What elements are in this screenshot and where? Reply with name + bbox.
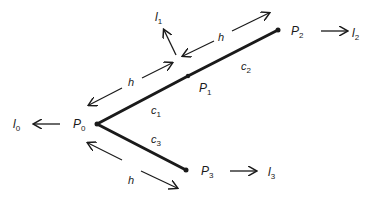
segment-c1 [97,76,188,124]
direction-label-l3-sub: 3 [271,172,275,181]
node-dot-p3 [184,168,189,173]
spacing-label-h-c2: h [218,31,224,43]
segment-label-c3-sub: 3 [157,139,161,148]
node-label-p2: P2 [291,25,303,37]
node-label-p0-sub: 0 [81,124,85,133]
direction-label-l2-sub: 2 [355,33,359,42]
node-label-p2-sub: 2 [299,31,303,40]
node-label-p1: P1 [199,82,211,94]
h-arrow-c1-right-icon [142,63,172,78]
node-label-p0-base: P [73,117,81,131]
direction-label-l0: l0 [13,118,20,130]
spacing-label-h-c1: h [128,76,134,88]
segment-c2 [188,30,278,76]
node-label-p1-sub: 1 [207,88,211,97]
segment-label-c3: c3 [151,133,161,145]
spacing-label-h-c3: h [128,174,134,186]
h-arrow-c2-right-icon [232,13,269,31]
node-label-p3-base: P [201,164,209,178]
node-label-p3: P3 [201,165,213,177]
node-label-p0: P0 [73,118,85,130]
node-dot-p0 [95,122,100,127]
h-arrow-c3-right-icon [141,171,177,188]
spacing-label-h-c1-text: h [128,76,134,88]
arrow-l1-icon [164,30,176,55]
segment-label-c2-sub: 2 [247,66,251,75]
segment-label-c2: c2 [241,60,251,72]
node-label-p1-base: P [199,81,207,95]
segment-label-c1: c1 [151,104,161,116]
direction-label-l2: l2 [352,27,359,39]
h-arrow-c3-left-icon [88,143,122,160]
node-label-p3-sub: 3 [209,171,213,180]
spacing-label-h-c2-text: h [218,31,224,43]
segment-c3 [97,124,186,170]
spacing-label-h-c3-text: h [128,174,134,186]
h-arrow-c2-left-icon [183,41,214,56]
direction-label-l0-sub: 0 [16,124,20,133]
diagram-graphics [0,0,374,203]
h-arrow-c1-left-icon [89,88,122,105]
direction-label-l1-sub: 1 [158,17,162,26]
node-dot-p1 [186,74,190,78]
segment-label-c1-sub: 1 [157,110,161,119]
diagram-canvas: P0 P1 P2 P3 l0 l1 l2 l3 c1 c2 c3 h h h [0,0,374,203]
node-dot-p2 [276,28,281,33]
direction-label-l3: l3 [268,166,275,178]
node-label-p2-base: P [291,24,299,38]
direction-label-l1: l1 [155,11,162,23]
